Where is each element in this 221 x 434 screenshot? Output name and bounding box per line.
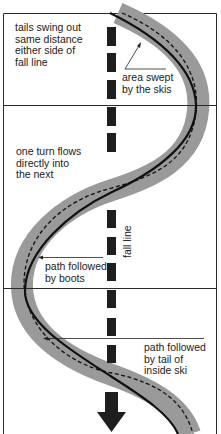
fall-line-arrow-icon bbox=[97, 392, 126, 432]
label-tails-swing: tails swing out same distance either sid… bbox=[15, 22, 83, 68]
label-tail-path: path followed by tail of inside ski bbox=[144, 342, 206, 377]
label-area-swept: area swept by the skis bbox=[122, 72, 173, 95]
label-boots-path: path followed by boots bbox=[45, 261, 107, 284]
arrowhead-icon bbox=[137, 42, 141, 48]
label-fall-line: fall line bbox=[121, 225, 133, 258]
label-one-turn: one turn flows directly into the next bbox=[16, 146, 81, 181]
